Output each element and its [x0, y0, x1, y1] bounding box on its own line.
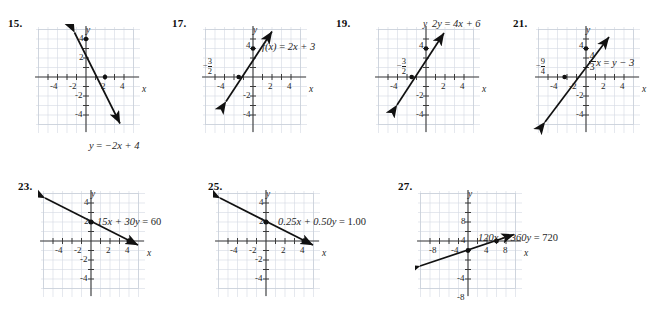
x-axis-label-25: x [322, 248, 326, 258]
axes-21 [535, 26, 639, 132]
problem-number-19: 19. [336, 17, 350, 29]
y-tick-label-15-2: -2 [75, 90, 83, 100]
equation-eq-19: = [445, 18, 451, 29]
equation-label-23: 15x + 30y = 60 [97, 216, 161, 227]
y-tick-label-23-1: 2 [84, 216, 89, 226]
extra-fraction-numerator-19: 3 [402, 57, 406, 66]
plot-point-x-intercept-23 [127, 239, 132, 244]
equation-label-25: 0.25x + 0.50y = 1.00 [278, 216, 366, 227]
extra-fraction-label-17: −32 [203, 57, 212, 75]
plot-point-y-intercept-15 [84, 37, 89, 42]
y-tick-label-25-1: 2 [259, 216, 264, 226]
y-tick-label-21-2: -4 [576, 109, 584, 119]
x-axis-label-17: x [309, 84, 313, 94]
x-tick-label-17-2: 4 [287, 81, 292, 91]
problem-number-23: 23. [18, 180, 32, 192]
equation-lhs-25: 0.25x + 0.50y [278, 216, 336, 227]
x-tick-label-21-3: 4 [620, 81, 625, 91]
problem-number-15: 15. [8, 17, 22, 29]
x-tick-label-25-3: 4 [300, 245, 305, 255]
equation-rhs-15: −2x + 4 [105, 140, 140, 151]
y-axis-label-23: y [91, 189, 95, 199]
y-axis-label-21: y [586, 25, 590, 35]
equation-var-21: x [596, 57, 601, 68]
y-tick-label-27-3: -8 [457, 292, 465, 302]
axes-27 [417, 190, 521, 296]
extra-fraction-denominator-17: 2 [208, 66, 212, 76]
equation-eq-25: = [339, 216, 345, 227]
x-tick-label-19-2: 4 [460, 81, 465, 91]
equation-fraction-numerator-21: 4 [589, 51, 596, 61]
equation-lhs-19: 2y [432, 18, 442, 29]
y-tick-label-27-0: 8 [461, 216, 466, 226]
equation-label-19: 2y = 4x + 6 [432, 18, 481, 29]
figure-27 [415, 188, 525, 300]
figure-25 [213, 188, 323, 300]
equation-eq-17: = [279, 41, 285, 52]
equation-label-15: y = −2x + 4 [89, 140, 139, 151]
y-axis-label-27: y [468, 189, 472, 199]
y-tick-label-21-1: -2 [576, 90, 584, 100]
graph-27 [415, 188, 525, 300]
y-tick-label-25-0: 4 [259, 197, 264, 207]
problem-number-21: 21. [513, 17, 527, 29]
y-tick-label-23-2: -2 [80, 254, 88, 264]
graph-19 [373, 24, 483, 136]
x-tick-label-25-0: -4 [230, 245, 238, 255]
equation-rhs-27: 720 [542, 232, 558, 243]
y-tick-label-27-1: 4 [461, 235, 466, 245]
figure-19 [373, 24, 483, 136]
x-tick-label-21-2: 2 [601, 81, 606, 91]
extra-fraction-numerator-21: 9 [541, 57, 545, 66]
figure-15 [33, 24, 143, 136]
y-tick-label-21-0: 4 [579, 40, 584, 50]
equation-eq-23: = [142, 216, 148, 227]
equation-rhs-21: y − 3 [612, 57, 634, 68]
plot-point-x-intercept-15 [103, 75, 108, 80]
x-tick-label-23-2: 2 [106, 245, 111, 255]
plot-point-y-intercept-25 [264, 220, 269, 225]
x-tick-label-15-0: -4 [50, 81, 58, 91]
x-tick-label-19-0: -4 [390, 81, 398, 91]
axes-19 [375, 26, 479, 132]
x-tick-label-27-0: -8 [429, 245, 437, 255]
y-tick-label-19-1: -2 [416, 90, 424, 100]
extra-fraction-denominator-19: 2 [402, 66, 406, 76]
problem-number-27: 27. [398, 180, 412, 192]
equation-fraction-denominator-21: 3 [589, 61, 596, 72]
equation-lhs-17: f(x) [262, 41, 277, 52]
plot-point-y-intercept-23 [89, 220, 94, 225]
extra-fraction-label-19: −32 [397, 57, 406, 75]
x-tick-label-21-0: -4 [550, 81, 558, 91]
y-tick-label-19-0: 4 [419, 40, 424, 50]
equation-rhs-17: 2x + 3 [288, 41, 316, 52]
equation-label-17: f(x) = 2x + 3 [262, 41, 315, 52]
graph-21 [533, 24, 643, 136]
plot-point-x-intercept-25 [302, 239, 307, 244]
axes-15 [35, 26, 139, 132]
equation-label-27: 120x − 360y = 720 [478, 232, 558, 243]
equation-rhs-19: 4x + 6 [453, 18, 481, 29]
equation-eq-15: = [96, 140, 102, 151]
figure-21 [533, 24, 643, 136]
x-tick-label-27-1: -4 [451, 245, 459, 255]
y-tick-label-23-0: 4 [84, 197, 89, 207]
x-axis-label-15: x [142, 84, 146, 94]
y-tick-label-15-3: -4 [75, 109, 83, 119]
equation-label-21: 43x = y − 3 [588, 51, 634, 73]
x-tick-label-17-1: 2 [268, 81, 273, 91]
y-tick-label-23-3: -4 [80, 273, 88, 283]
y-tick-label-25-3: -4 [255, 273, 263, 283]
extra-fraction-denominator-21: 4 [541, 66, 545, 76]
extra-fraction-label-21: −94 [536, 57, 545, 75]
graph-15 [33, 24, 143, 136]
graph-23 [38, 188, 148, 300]
plot-point-x-intercept-19 [409, 75, 414, 80]
plot-point-y-intercept-17 [251, 46, 256, 51]
x-tick-label-27-2: 4 [484, 245, 489, 255]
y-tick-label-15-1: 2 [79, 52, 84, 62]
equation-rhs-23: 60 [151, 216, 162, 227]
x-tick-label-19-1: 2 [441, 81, 446, 91]
y-axis-label-17: y [253, 25, 257, 35]
equation-rhs-25: 1.00 [348, 216, 366, 227]
